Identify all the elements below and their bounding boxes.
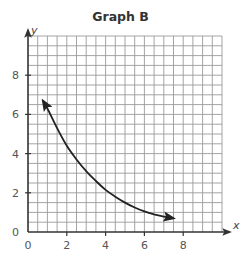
y-tick-label: 4 (12, 148, 19, 161)
y-tick-label: 2 (12, 187, 19, 200)
chart-plot-area: xy 0246802468 (0, 0, 241, 259)
x-tick-label: 4 (102, 239, 109, 252)
x-axis-label: x (232, 219, 240, 232)
tick-labels: 0246802468 (12, 69, 187, 252)
y-axis-label: y (30, 24, 38, 37)
x-tick-label: 2 (63, 239, 70, 252)
y-tick-label: 8 (12, 69, 19, 82)
x-tick-label: 6 (141, 239, 148, 252)
y-tick-label: 6 (12, 108, 19, 121)
x-tick-label: 0 (25, 239, 32, 252)
x-tick-label: 8 (180, 239, 187, 252)
y-tick-label: 0 (12, 226, 19, 239)
